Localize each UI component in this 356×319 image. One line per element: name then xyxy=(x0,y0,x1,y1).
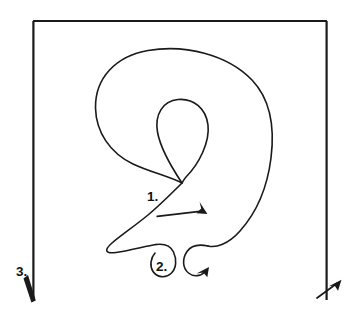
step-1-shaft-final xyxy=(157,211,202,216)
stroke-diagram-svg: 1. 2. 3. xyxy=(0,0,356,319)
frame-group xyxy=(24,21,342,303)
step-2-label: 2. xyxy=(156,259,167,274)
step-1-label: 1. xyxy=(147,189,158,204)
step-1-arrow-head-icon xyxy=(196,202,207,214)
ribbon-stroke-group xyxy=(95,49,272,278)
step-3-label: 3. xyxy=(16,264,27,279)
frame-right-arrow-head-icon xyxy=(329,280,342,291)
outer-loop-right-branch xyxy=(95,49,272,247)
outer-loop-left-branch xyxy=(107,183,182,253)
diagram-canvas: 1. 2. 3. xyxy=(0,0,356,319)
step-1-arrow-group xyxy=(157,202,207,216)
inner-teardrop-loop xyxy=(157,99,208,183)
